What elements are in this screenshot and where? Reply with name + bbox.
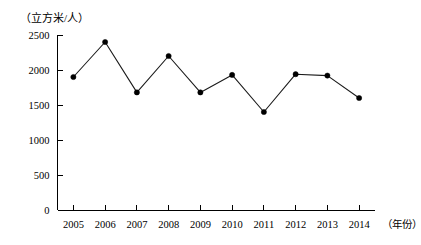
y-tick-label: 1500 [29,100,50,111]
data-point-marker [198,90,203,95]
data-point-marker [103,39,108,44]
data-series [71,39,362,114]
axis-lines [58,35,376,211]
data-point-marker [357,95,362,100]
data-point-marker [166,53,171,58]
y-tick-label: 1000 [29,135,50,146]
x-tick-label: 2005 [63,219,84,230]
y-tick-label: 500 [34,170,50,181]
data-point-marker [230,72,235,77]
x-tick-label: 2011 [254,219,275,230]
x-tick-label: 2014 [349,219,371,230]
y-axis-title: （立方米/人） [20,11,89,24]
x-tick-label: 2006 [95,219,116,230]
x-axis-ticks: 2005200620072008200920102011201220132014 [63,205,371,230]
chart-canvas: （立方米/人） 05001000150020002500 20052006200… [0,0,421,245]
data-point-marker [325,73,330,78]
series-markers [71,39,362,114]
x-tick-label: 2013 [317,219,338,230]
data-point-marker [71,74,76,79]
data-point-marker [293,72,298,77]
x-tick-label: 2007 [126,219,147,230]
series-line-path [73,42,359,112]
data-point-marker [261,109,266,114]
x-tick-label: 2012 [285,219,306,230]
x-tick-label: 2010 [222,219,243,230]
x-tick-label: 2008 [158,219,179,230]
x-axis-title: （年份） [382,218,421,230]
y-tick-label: 0 [44,205,49,216]
x-axis-title-label: （年份） [382,218,421,230]
data-point-marker [134,90,139,95]
line-chart-figure: （立方米/人） 05001000150020002500 20052006200… [0,0,421,245]
x-tick-label: 2009 [190,219,211,230]
y-axis-title-label: （立方米/人） [20,11,89,24]
y-tick-label: 2000 [29,65,50,76]
y-tick-label: 2500 [29,30,50,41]
